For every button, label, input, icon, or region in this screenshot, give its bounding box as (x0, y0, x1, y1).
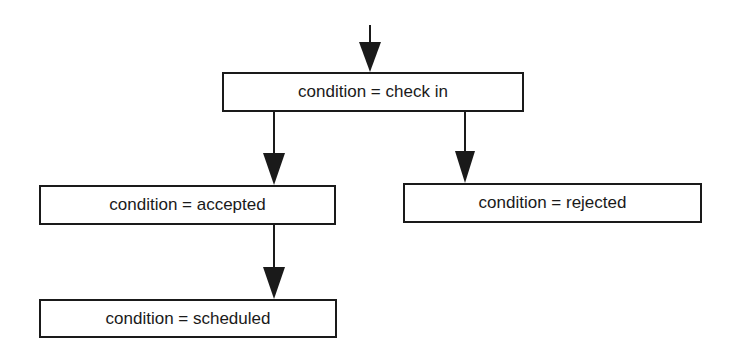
edge-accepted-to-scheduled (263, 224, 285, 299)
node-label: condition = rejected (479, 193, 627, 213)
node-scheduled: condition = scheduled (39, 299, 337, 338)
node-label: condition = accepted (109, 195, 265, 215)
node-check-in: condition = check in (222, 72, 524, 112)
arrowhead-icon (359, 42, 381, 72)
arrowhead-icon (263, 153, 285, 185)
edge-check-in-to-rejected (455, 111, 475, 183)
arrowhead-icon (263, 267, 285, 299)
edge-check-in-to-accepted (263, 111, 285, 185)
arrowhead-icon (455, 151, 475, 183)
node-accepted: condition = accepted (39, 185, 336, 225)
edge-start-to-check-in (359, 25, 381, 72)
node-label: condition = check in (298, 82, 448, 102)
node-label: condition = scheduled (106, 309, 271, 329)
node-rejected: condition = rejected (403, 183, 702, 223)
